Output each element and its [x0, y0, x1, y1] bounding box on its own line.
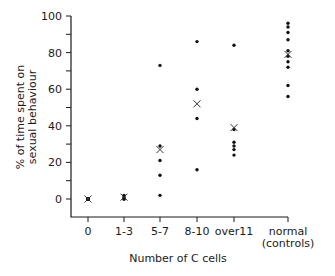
data-point: [195, 40, 198, 43]
data-point: [286, 95, 289, 98]
data-point: [158, 144, 161, 147]
data-point: [286, 49, 289, 52]
x-tick-label: 1-3: [115, 225, 133, 238]
y-tick-label: 0: [55, 193, 62, 206]
data-point: [158, 174, 161, 177]
x-tick-label: (controls): [262, 237, 314, 250]
mean-marker: [194, 100, 201, 107]
y-tick-label: 80: [48, 47, 62, 60]
data-point: [286, 22, 289, 25]
data-point: [286, 25, 289, 28]
data-point: [158, 194, 161, 197]
x-tick-label: 8-10: [185, 225, 210, 238]
x-tick-label: over11: [215, 225, 254, 238]
data-point: [195, 117, 198, 120]
y-axis-label-line-2: sexual behaviour: [26, 69, 39, 164]
x-axis-ticks: 01-35-78-10over11normal(controls): [85, 217, 315, 250]
data-marks: [85, 22, 292, 203]
data-point: [286, 66, 289, 69]
mean-marker: [85, 196, 92, 203]
data-point: [158, 64, 161, 67]
data-point: [195, 168, 198, 171]
x-tick-label: 0: [85, 225, 92, 238]
data-point: [286, 60, 289, 63]
data-point: [286, 84, 289, 87]
data-point: [286, 31, 289, 34]
data-point: [158, 159, 161, 162]
data-point: [195, 88, 198, 91]
axes: [71, 16, 288, 217]
y-tick-label: 40: [48, 120, 62, 133]
y-tick-label: 20: [48, 156, 62, 169]
data-point: [232, 153, 235, 156]
axis-lines: [71, 16, 288, 217]
y-axis-ticks: 020406080100: [41, 10, 71, 206]
data-point: [232, 144, 235, 147]
x-tick-label: 5-7: [151, 225, 169, 238]
y-tick-label: 100: [41, 10, 62, 23]
x-axis-label: Number of C cells: [129, 252, 227, 265]
data-point: [232, 141, 235, 144]
y-tick-label: 60: [48, 83, 62, 96]
scatter-chart: 020406080100 01-35-78-10over11normal(con…: [0, 0, 335, 276]
data-point: [232, 44, 235, 47]
data-point: [286, 38, 289, 41]
data-point: [232, 148, 235, 151]
